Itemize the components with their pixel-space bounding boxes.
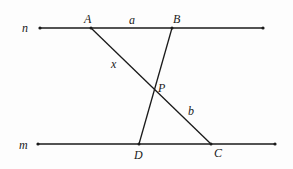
segment-bd	[139, 28, 172, 144]
line-n-left-endpoint	[38, 26, 41, 29]
line-n-right-endpoint	[261, 26, 264, 29]
label-point-p: P	[157, 81, 166, 95]
label-segment-x: x	[110, 57, 117, 71]
label-point-d: D	[133, 148, 143, 162]
point-b	[171, 27, 174, 30]
label-line-n: n	[22, 21, 28, 35]
line-m-left-endpoint	[36, 142, 39, 145]
label-segment-a: a	[129, 13, 135, 27]
segment-ac	[91, 28, 211, 144]
point-a	[90, 27, 93, 30]
point-d	[138, 143, 141, 146]
label-line-m: m	[19, 138, 28, 152]
geometry-diagram: n m A a B x P b D C	[0, 0, 293, 169]
line-m-right-endpoint	[273, 142, 276, 145]
label-segment-b: b	[188, 104, 194, 118]
label-point-a: A	[83, 12, 92, 26]
point-c	[210, 143, 213, 146]
label-point-b: B	[173, 12, 181, 26]
label-point-c: C	[214, 146, 223, 160]
